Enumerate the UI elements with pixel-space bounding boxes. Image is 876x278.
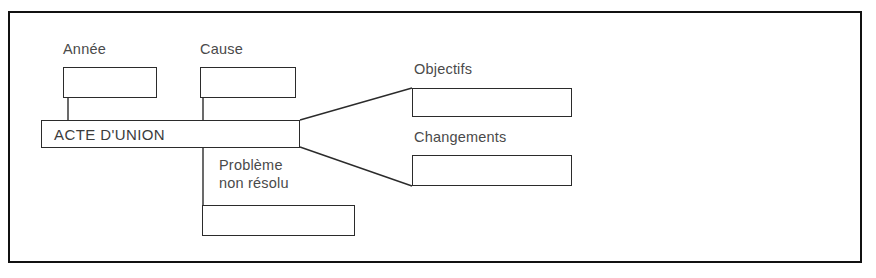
- box-annee[interactable]: [63, 67, 157, 98]
- diagram-root: Année Cause ACTE D'UNION Problèmenon rés…: [0, 0, 876, 278]
- label-changements: Changements: [414, 128, 506, 146]
- label-probleme-line1: Problème: [219, 157, 283, 173]
- box-probleme[interactable]: [202, 205, 355, 236]
- box-objectifs[interactable]: [412, 88, 572, 117]
- box-acte-union[interactable]: ACTE D'UNION: [41, 120, 300, 148]
- label-annee: Année: [63, 40, 106, 58]
- label-objectifs: Objectifs: [414, 60, 472, 78]
- box-cause[interactable]: [200, 67, 296, 98]
- label-cause: Cause: [200, 40, 243, 58]
- box-changements[interactable]: [412, 155, 572, 186]
- center-node-label: ACTE D'UNION: [42, 126, 165, 143]
- label-probleme: Problèmenon résolu: [219, 156, 289, 192]
- label-probleme-line2: non résolu: [219, 175, 289, 191]
